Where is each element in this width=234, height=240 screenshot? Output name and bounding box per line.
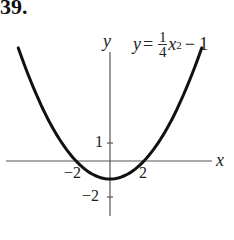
equation-exponent: 2 bbox=[176, 39, 182, 51]
equation-var: x bbox=[168, 34, 176, 55]
x-axis-label: x bbox=[216, 150, 224, 171]
x-tick-label-neg2: −2 bbox=[64, 164, 81, 182]
x-tick-label-2: 2 bbox=[139, 164, 147, 182]
fraction-numerator: 1 bbox=[159, 30, 167, 44]
fraction-denominator: 4 bbox=[159, 45, 167, 59]
y-tick-label-1: 1 bbox=[95, 133, 103, 151]
equation-constant: − 1 bbox=[185, 34, 209, 55]
equation-label: y = 1 4 x2 − 1 bbox=[133, 30, 208, 59]
y-tick-label-neg2: −2 bbox=[82, 187, 99, 205]
y-axis-label: y bbox=[103, 31, 111, 52]
equation-equals: = bbox=[143, 34, 153, 55]
equation-lhs: y bbox=[133, 34, 141, 55]
equation-fraction: 1 4 bbox=[158, 30, 167, 59]
